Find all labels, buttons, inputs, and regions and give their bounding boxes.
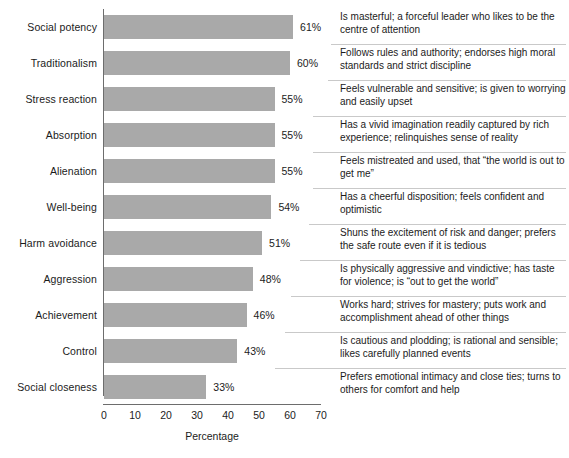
- category-label: Harm avoidance: [0, 225, 97, 261]
- chart-row: Well-being54%Has a cheerful disposition;…: [0, 189, 569, 225]
- category-label: Stress reaction: [0, 81, 97, 117]
- category-label: Traditionalism: [0, 45, 97, 81]
- trait-description: Is cautious and plodding; is rational an…: [340, 335, 566, 360]
- trait-description: Is masterful; a forceful leader who like…: [340, 11, 566, 36]
- trait-description: Has a vivid imagination readily captured…: [340, 119, 566, 144]
- trait-description: Feels mistreated and used, that “the wor…: [340, 155, 566, 180]
- chart-row: Absorption55%Has a vivid imagination rea…: [0, 117, 569, 153]
- category-label: Absorption: [0, 117, 97, 153]
- bar-value-label: 51%: [269, 231, 290, 255]
- x-tick-label: 0: [101, 409, 107, 421]
- bar-value-label: 61%: [300, 15, 321, 39]
- chart-row: Social potency61%Is masterful; a forcefu…: [0, 9, 569, 45]
- category-label: Achievement: [0, 297, 97, 333]
- bar: [104, 87, 275, 111]
- trait-description: Feels vulnerable and sensitive; is given…: [340, 83, 566, 108]
- x-tick-label: 40: [222, 409, 234, 421]
- chart-row: Achievement46%Works hard; strives for ma…: [0, 297, 569, 333]
- bar: [104, 195, 271, 219]
- bar-value-label: 54%: [278, 195, 299, 219]
- x-tick-label: 70: [315, 409, 327, 421]
- trait-description: Is physically aggressive and vindictive;…: [340, 263, 566, 288]
- category-label: Control: [0, 333, 97, 369]
- chart-row: Social closeness33%Prefers emotional int…: [0, 369, 569, 405]
- bar: [104, 51, 290, 75]
- trait-description: Shuns the excitement of risk and danger;…: [340, 227, 566, 252]
- chart-row: Alienation55%Feels mistreated and used, …: [0, 153, 569, 189]
- trait-description: Has a cheerful disposition; feels confid…: [340, 191, 566, 216]
- x-tick-label: 20: [160, 409, 172, 421]
- x-axis-title: Percentage: [103, 430, 321, 442]
- bar-value-label: 33%: [213, 375, 234, 399]
- category-label: Aggression: [0, 261, 97, 297]
- chart-row: Traditionalism60%Follows rules and autho…: [0, 45, 569, 81]
- bar: [104, 303, 247, 327]
- bar: [104, 123, 275, 147]
- x-tick-label: 10: [129, 409, 141, 421]
- x-tick-label: 50: [253, 409, 265, 421]
- x-tick-label: 30: [191, 409, 203, 421]
- chart-row: Aggression48%Is physically aggressive an…: [0, 261, 569, 297]
- bar: [104, 231, 262, 255]
- trait-description: Prefers emotional intimacy and close tie…: [340, 371, 566, 396]
- chart-row: Stress reaction55%Feels vulnerable and s…: [0, 81, 569, 117]
- x-axis-line: [103, 404, 321, 405]
- category-label: Well-being: [0, 189, 97, 225]
- bar: [104, 375, 206, 399]
- bar: [104, 267, 253, 291]
- category-label: Social closeness: [0, 369, 97, 405]
- bar-value-label: 60%: [297, 51, 318, 75]
- bar: [104, 339, 237, 363]
- trait-description: Follows rules and authority; endorses hi…: [340, 47, 566, 72]
- bar-value-label: 55%: [282, 87, 303, 111]
- bar: [104, 159, 275, 183]
- bar: [104, 15, 293, 39]
- chart-row: Harm avoidance51%Shuns the excitement of…: [0, 225, 569, 261]
- category-label: Social potency: [0, 9, 97, 45]
- bar-value-label: 43%: [244, 339, 265, 363]
- bar-value-label: 55%: [282, 123, 303, 147]
- trait-description: Works hard; strives for mastery; puts wo…: [340, 299, 566, 324]
- chart-row: Control43%Is cautious and plodding; is r…: [0, 333, 569, 369]
- x-tick-label: 60: [284, 409, 296, 421]
- category-label: Alienation: [0, 153, 97, 189]
- bar-value-label: 55%: [282, 159, 303, 183]
- bar-value-label: 46%: [254, 303, 275, 327]
- bar-value-label: 48%: [260, 267, 281, 291]
- bar-chart: Social potency61%Is masterful; a forcefu…: [0, 0, 569, 458]
- chart-rows: Social potency61%Is masterful; a forcefu…: [0, 9, 569, 405]
